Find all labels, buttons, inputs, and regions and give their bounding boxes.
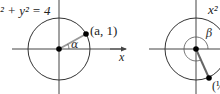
left-origin-point: [56, 46, 62, 52]
left-angle-label: α: [71, 38, 79, 51]
x-axis-arrow: x: [110, 47, 127, 65]
right-angle-label: β: [205, 27, 212, 40]
right-radius-line: [196, 49, 209, 78]
left-angle-arc: [68, 44, 69, 49]
right-diagram: x² β (½: [149, 0, 220, 94]
diagram-canvas: ² + y² = 4 (a, 1) α x x² β (½: [0, 0, 220, 94]
right-equation-label: x²: [207, 2, 219, 17]
left-equation-label: ² + y² = 4: [0, 3, 51, 18]
right-point: [206, 75, 212, 81]
left-point-label: (a, 1): [90, 23, 117, 38]
right-origin-point: [193, 46, 199, 52]
left-point-a1: [83, 31, 89, 37]
right-point-label: (½: [212, 79, 220, 93]
left-diagram: ² + y² = 4 (a, 1) α: [0, 0, 122, 94]
left-x-axis-label: x: [118, 50, 125, 64]
